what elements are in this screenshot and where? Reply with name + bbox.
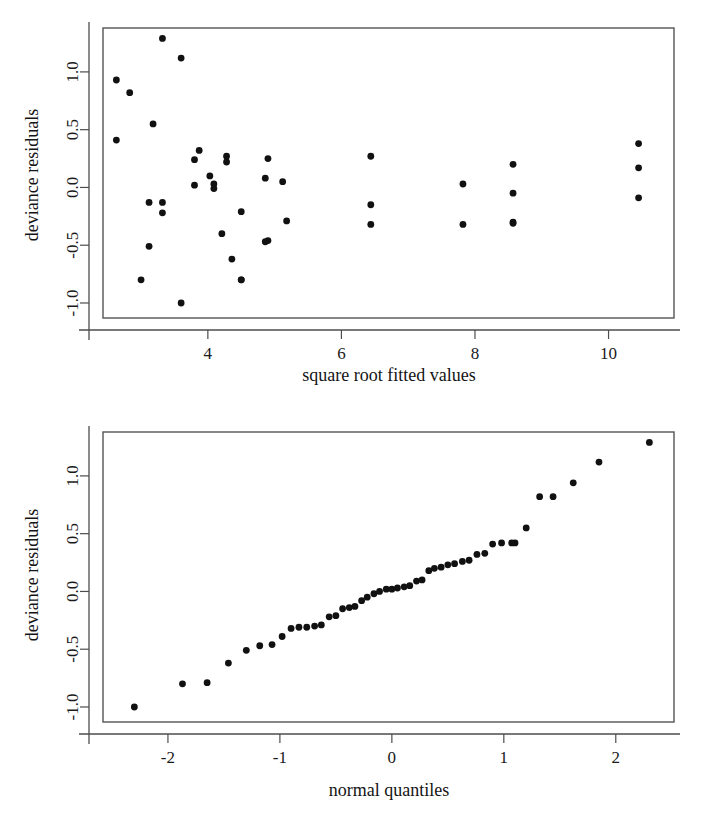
data-point bbox=[279, 633, 286, 640]
data-point bbox=[191, 156, 198, 163]
data-point bbox=[510, 190, 517, 197]
y-axis-title: deviance residuals bbox=[22, 109, 42, 241]
data-point bbox=[550, 493, 557, 500]
y-tick-label: -1.0 bbox=[63, 694, 82, 721]
y-tick-label: -0.5 bbox=[63, 636, 82, 663]
y-tick-label: 0.0 bbox=[63, 177, 82, 198]
data-point bbox=[367, 221, 374, 228]
x-tick-label: 10 bbox=[600, 344, 617, 363]
y-tick-label: 0.0 bbox=[63, 581, 82, 602]
data-point bbox=[238, 208, 245, 215]
data-point bbox=[159, 199, 166, 206]
statistical-figure: 468101.00.50.0-0.5-1.0 deviance residual… bbox=[0, 0, 709, 833]
y-tick-label: 1.0 bbox=[63, 61, 82, 82]
data-point bbox=[159, 209, 166, 216]
data-point bbox=[438, 564, 445, 571]
data-point bbox=[646, 439, 653, 446]
x-tick-label: 4 bbox=[204, 344, 213, 363]
data-point bbox=[510, 220, 517, 227]
data-point bbox=[243, 647, 250, 654]
y-tick-label: 0.5 bbox=[63, 523, 82, 544]
data-point bbox=[460, 221, 467, 228]
data-point bbox=[223, 159, 230, 166]
x-tick-label: 8 bbox=[471, 344, 480, 363]
data-point bbox=[570, 479, 577, 486]
data-point bbox=[406, 582, 413, 589]
data-point bbox=[367, 153, 374, 160]
y-tick-label: -1.0 bbox=[63, 290, 82, 317]
plot-frame bbox=[103, 432, 674, 722]
y-tick-label: 0.5 bbox=[63, 119, 82, 140]
data-point bbox=[367, 201, 374, 208]
y-axis-title: deviance residuals bbox=[22, 509, 42, 641]
x-axis-title: square root fitted values bbox=[302, 365, 475, 385]
data-point bbox=[635, 194, 642, 201]
data-point bbox=[262, 238, 269, 245]
data-point bbox=[256, 642, 263, 649]
residuals-vs-fitted-plot: 468101.00.50.0-0.5-1.0 deviance residual… bbox=[0, 0, 709, 400]
data-point bbox=[451, 560, 458, 567]
data-point bbox=[510, 161, 517, 168]
data-point bbox=[178, 300, 185, 307]
x-tick-label: 6 bbox=[337, 344, 346, 363]
data-point bbox=[178, 55, 185, 62]
data-point bbox=[635, 164, 642, 171]
panel-residuals-vs-fitted: 468101.00.50.0-0.5-1.0 deviance residual… bbox=[0, 0, 709, 400]
y-tick-label: 1.0 bbox=[63, 465, 82, 486]
data-point bbox=[326, 613, 333, 620]
data-point bbox=[159, 35, 166, 42]
normal-qq-plot: -2-10121.00.50.0-0.5-1.0 deviance residu… bbox=[0, 400, 709, 833]
x-tick-label: 0 bbox=[388, 748, 397, 767]
data-point bbox=[364, 594, 371, 601]
data-point bbox=[113, 137, 120, 144]
data-point bbox=[288, 625, 295, 632]
x-axis-title: normal quantiles bbox=[329, 780, 449, 800]
x-tick-label: -1 bbox=[273, 748, 287, 767]
data-point bbox=[146, 243, 153, 250]
data-point bbox=[413, 578, 420, 585]
data-point bbox=[419, 576, 426, 583]
data-point bbox=[238, 276, 245, 283]
data-point bbox=[346, 604, 353, 611]
data-point bbox=[523, 525, 530, 532]
panel-normal-qq: -2-10121.00.50.0-0.5-1.0 deviance residu… bbox=[0, 400, 709, 833]
data-point bbox=[474, 551, 481, 558]
data-point bbox=[179, 680, 186, 687]
data-point bbox=[269, 641, 276, 648]
data-point bbox=[146, 199, 153, 206]
data-point bbox=[466, 557, 473, 564]
data-point bbox=[138, 276, 145, 283]
data-point bbox=[512, 540, 519, 547]
x-tick-label: -2 bbox=[161, 748, 175, 767]
data-point bbox=[225, 660, 232, 667]
data-point bbox=[635, 140, 642, 147]
data-point bbox=[498, 540, 505, 547]
data-point bbox=[191, 182, 198, 189]
data-point bbox=[536, 493, 543, 500]
data-point bbox=[388, 586, 395, 593]
data-point bbox=[210, 185, 217, 192]
data-point bbox=[126, 89, 133, 96]
data-point bbox=[283, 218, 290, 225]
data-point bbox=[401, 583, 408, 590]
y-tick-label: -0.5 bbox=[63, 232, 82, 259]
data-point bbox=[113, 77, 120, 84]
data-point bbox=[262, 175, 269, 182]
data-point bbox=[218, 230, 225, 237]
data-point bbox=[352, 603, 359, 610]
data-point bbox=[206, 172, 213, 179]
data-point bbox=[150, 121, 157, 128]
data-point bbox=[296, 624, 303, 631]
x-tick-label: 1 bbox=[500, 748, 509, 767]
data-point bbox=[196, 147, 203, 154]
data-point bbox=[265, 155, 272, 162]
data-point bbox=[303, 624, 310, 631]
data-point bbox=[228, 256, 235, 263]
data-point bbox=[332, 612, 339, 619]
data-point bbox=[459, 558, 466, 565]
data-point bbox=[394, 585, 401, 592]
data-point bbox=[376, 588, 383, 595]
data-point bbox=[431, 565, 438, 572]
data-point bbox=[339, 605, 346, 612]
data-point bbox=[460, 181, 467, 188]
